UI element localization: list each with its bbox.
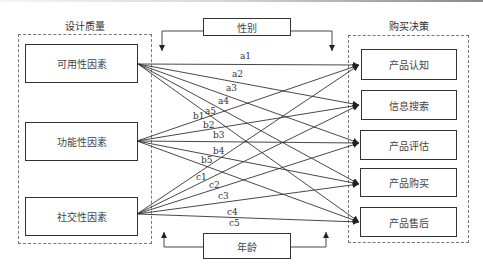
node-age-moderator: 年龄 [203, 233, 291, 259]
node-label: 产品评估 [389, 138, 429, 153]
label-c2: c2 [209, 180, 220, 190]
node-label: 功能性因素 [57, 134, 107, 149]
node-sociality-factor: 社交性因素 [25, 197, 138, 236]
label-c3: c3 [218, 191, 229, 201]
label-b2: b2 [203, 120, 215, 130]
node-information-search: 信息搜索 [361, 90, 457, 120]
node-label: 年龄 [237, 239, 257, 254]
node-product-purchase: 产品购买 [360, 168, 457, 197]
path-labels: a1 a2 a3 a4 a5 b1 b2 b3 b4 b5 c1 c2 c3 c… [193, 51, 251, 228]
node-label: 可用性因素 [57, 56, 107, 71]
node-usability-factor: 可用性因素 [25, 44, 138, 83]
node-product-cognition: 产品认知 [361, 49, 457, 80]
node-functionality-factor: 功能性因素 [25, 122, 138, 161]
node-label: 信息搜索 [389, 98, 429, 113]
label-a3: a3 [226, 83, 237, 93]
node-product-evaluation: 产品评估 [360, 130, 457, 160]
label-b5: b5 [201, 155, 213, 165]
node-label: 产品售后 [389, 215, 429, 230]
label-a5: a5 [205, 106, 216, 116]
node-label: 产品购买 [389, 175, 429, 190]
label-a4: a4 [218, 96, 229, 106]
label-c5: c5 [229, 218, 240, 228]
label-a2: a2 [232, 69, 243, 79]
label-c1: c1 [196, 172, 207, 182]
node-label: 社交性因素 [57, 209, 107, 224]
node-after-sales: 产品售后 [360, 207, 457, 237]
node-gender-moderator: 性别 [203, 18, 291, 36]
node-label: 产品认知 [389, 57, 429, 72]
label-a1: a1 [240, 51, 251, 61]
label-b4: b4 [213, 146, 225, 156]
label-b3: b3 [213, 130, 225, 140]
node-label: 性别 [237, 20, 257, 35]
label-c4: c4 [227, 207, 238, 217]
